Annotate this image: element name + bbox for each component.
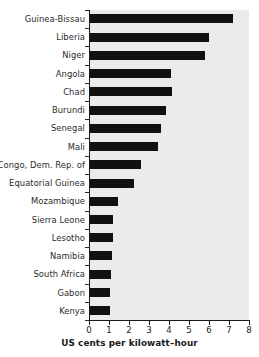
x-axis-tick-label: 2 xyxy=(121,325,137,335)
category-label: Kenya xyxy=(59,302,85,320)
bar-row xyxy=(89,265,249,283)
bar xyxy=(89,124,161,133)
bar xyxy=(89,160,141,169)
y-axis-tick xyxy=(85,265,89,266)
x-axis-tick-label: 3 xyxy=(141,325,157,335)
y-axis-tick xyxy=(85,229,89,230)
x-axis-tick-label: 7 xyxy=(221,325,237,335)
category-label: Senegal xyxy=(51,119,85,137)
category-label: Niger xyxy=(62,46,85,64)
category-label: Congo, Dem. Rep. of xyxy=(0,156,85,174)
category-label: Liberia xyxy=(56,28,85,46)
x-axis-tick-label: 5 xyxy=(181,325,197,335)
y-axis-tick xyxy=(85,247,89,248)
bar xyxy=(89,288,110,297)
y-axis-tick xyxy=(85,101,89,102)
y-axis-tick xyxy=(85,302,89,303)
bar-row xyxy=(89,28,249,46)
bar-row xyxy=(89,46,249,64)
x-axis-tick-label: 6 xyxy=(201,325,217,335)
bar xyxy=(89,215,113,224)
bar-row xyxy=(89,156,249,174)
y-axis-tick xyxy=(85,10,89,11)
category-label: Angola xyxy=(56,65,85,83)
bar xyxy=(89,14,233,23)
bar xyxy=(89,142,158,151)
y-axis-tick xyxy=(85,192,89,193)
y-axis-line xyxy=(89,10,90,321)
bar xyxy=(89,197,118,206)
bar-row xyxy=(89,83,249,101)
x-axis-tick-label: 8 xyxy=(241,325,257,335)
bar-row xyxy=(89,10,249,28)
bar xyxy=(89,87,172,96)
bar xyxy=(89,179,134,188)
bar xyxy=(89,106,166,115)
bar xyxy=(89,69,171,78)
category-label: Burundi xyxy=(52,101,85,119)
y-axis-tick xyxy=(85,46,89,47)
y-axis-tick xyxy=(85,211,89,212)
y-axis-tick xyxy=(85,28,89,29)
bar xyxy=(89,233,113,242)
bar xyxy=(89,51,205,60)
bar-row xyxy=(89,65,249,83)
y-axis-tick xyxy=(85,284,89,285)
bar-row xyxy=(89,229,249,247)
category-label: Sierra Leone xyxy=(32,211,85,229)
category-label: Lesotho xyxy=(52,229,85,247)
x-axis-title: US cents per kilowatt–hour xyxy=(0,338,259,348)
y-axis-tick xyxy=(85,174,89,175)
bar-row xyxy=(89,247,249,265)
category-label: Namibia xyxy=(50,247,85,265)
category-label: Guinea-Bissau xyxy=(25,10,85,28)
y-axis-tick xyxy=(85,83,89,84)
category-label: Equatorial Guinea xyxy=(9,174,85,192)
bar-row xyxy=(89,119,249,137)
y-axis-tick xyxy=(85,119,89,120)
bar-row xyxy=(89,284,249,302)
category-label: Mozambique xyxy=(31,192,85,210)
bar xyxy=(89,251,112,260)
y-axis-tick xyxy=(85,156,89,157)
bar-chart-figure: Guinea-BissauLiberiaNigerAngolaChadBurun… xyxy=(0,0,259,357)
bar-row xyxy=(89,101,249,119)
bar-row xyxy=(89,302,249,320)
category-label: Gabon xyxy=(57,284,85,302)
x-axis-tick-label: 4 xyxy=(161,325,177,335)
x-axis-tick-label: 0 xyxy=(81,325,97,335)
bar xyxy=(89,306,110,315)
x-axis-tick-label: 1 xyxy=(101,325,117,335)
category-label: Chad xyxy=(63,83,85,101)
bar xyxy=(89,270,111,279)
bar-row xyxy=(89,174,249,192)
y-axis-tick xyxy=(85,65,89,66)
category-label: South Africa xyxy=(34,265,86,283)
category-label: Mali xyxy=(68,138,85,156)
bar-row xyxy=(89,192,249,210)
bar-row xyxy=(89,138,249,156)
bar-row xyxy=(89,211,249,229)
plot-area xyxy=(89,10,249,320)
category-axis-labels: Guinea-BissauLiberiaNigerAngolaChadBurun… xyxy=(0,10,85,320)
bar xyxy=(89,33,209,42)
y-axis-tick xyxy=(85,138,89,139)
